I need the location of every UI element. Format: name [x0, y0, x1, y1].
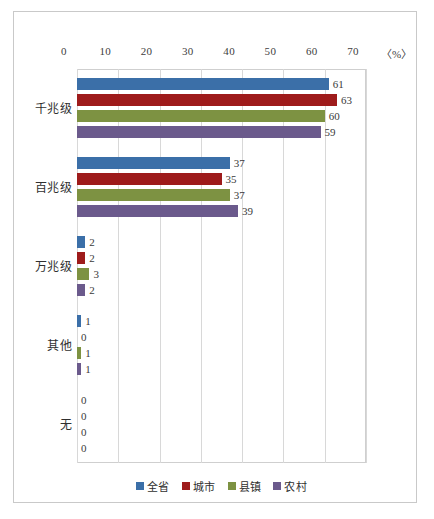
chart-legend: 全省城市县镇农村: [77, 478, 366, 494]
legend-label: 农村: [284, 478, 307, 494]
bar: [77, 78, 329, 90]
bar-value-label: 1: [85, 347, 91, 359]
legend-item[interactable]: 城市: [182, 478, 216, 494]
bar-value-label: 0: [81, 442, 87, 454]
bar-value-label: 2: [89, 252, 95, 264]
legend-swatch-icon: [228, 482, 236, 490]
bar-value-label: 3: [93, 268, 99, 280]
legend-swatch-icon: [182, 482, 190, 490]
bar: [77, 110, 325, 122]
y-axis-category-labels: 千兆级百兆级万兆级其他无: [14, 69, 72, 463]
legend-label: 城市: [193, 478, 216, 494]
gridline: [366, 69, 367, 463]
legend-swatch-icon: [273, 482, 281, 490]
bar-value-label: 0: [81, 331, 87, 343]
bar: [77, 284, 85, 296]
x-axis-tick-label: 30: [182, 45, 194, 57]
bar-value-label: 0: [81, 426, 87, 438]
x-axis-tick-label: 50: [265, 45, 277, 57]
x-axis-tick-label: 70: [347, 45, 359, 57]
legend-swatch-icon: [136, 482, 144, 490]
bar-value-label: 60: [329, 110, 340, 122]
legend-item[interactable]: 县镇: [228, 478, 262, 494]
bar: [77, 157, 230, 169]
y-axis-category-label: 百兆级: [16, 178, 72, 196]
bar: [77, 94, 337, 106]
x-axis-tick-label: 60: [306, 45, 318, 57]
bar-value-label: 1: [85, 363, 91, 375]
x-axis-tick-label: 0: [61, 45, 67, 57]
bar-value-label: 35: [226, 173, 237, 185]
bar-value-label: 0: [81, 394, 87, 406]
legend-item[interactable]: 农村: [273, 478, 307, 494]
bar: [77, 363, 81, 375]
legend-item[interactable]: 全省: [136, 478, 170, 494]
x-axis-tick-label: 40: [223, 45, 235, 57]
bar-value-label: 2: [89, 236, 95, 248]
bar: [77, 315, 81, 327]
bar: [77, 189, 230, 201]
bar-value-label: 59: [325, 126, 336, 138]
bar-value-label: 39: [242, 205, 253, 217]
bar-value-label: 2: [89, 284, 95, 296]
x-axis-tick-label: 10: [99, 45, 111, 57]
bar-value-label: 1: [85, 315, 91, 327]
x-axis-tick-label: 20: [141, 45, 153, 57]
bar-value-label: 0: [81, 410, 87, 422]
bar: [77, 126, 321, 138]
bar: [77, 236, 85, 248]
bar: [77, 205, 238, 217]
bar: [77, 173, 222, 185]
bar-value-label: 63: [341, 94, 352, 106]
y-axis-category-label: 万兆级: [16, 257, 72, 275]
chart-frame: 010203040506070 〈%〉 千兆级百兆级万兆级其他无 6163605…: [13, 11, 417, 503]
bar: [77, 268, 89, 280]
y-axis-category-label: 无: [16, 415, 72, 433]
x-axis-unit-label: 〈%〉: [381, 45, 412, 61]
bar-value-label: 37: [234, 157, 245, 169]
bar: [77, 252, 85, 264]
legend-label: 县镇: [239, 478, 262, 494]
bar-value-label: 37: [234, 189, 245, 201]
plot-wrap: 6163605937353739223210110000: [77, 69, 366, 463]
bar-value-label: 61: [333, 78, 344, 90]
y-axis-category-label: 其他: [16, 336, 72, 354]
bar: [77, 347, 81, 359]
legend-label: 全省: [147, 478, 170, 494]
y-axis-category-label: 千兆级: [16, 99, 72, 117]
